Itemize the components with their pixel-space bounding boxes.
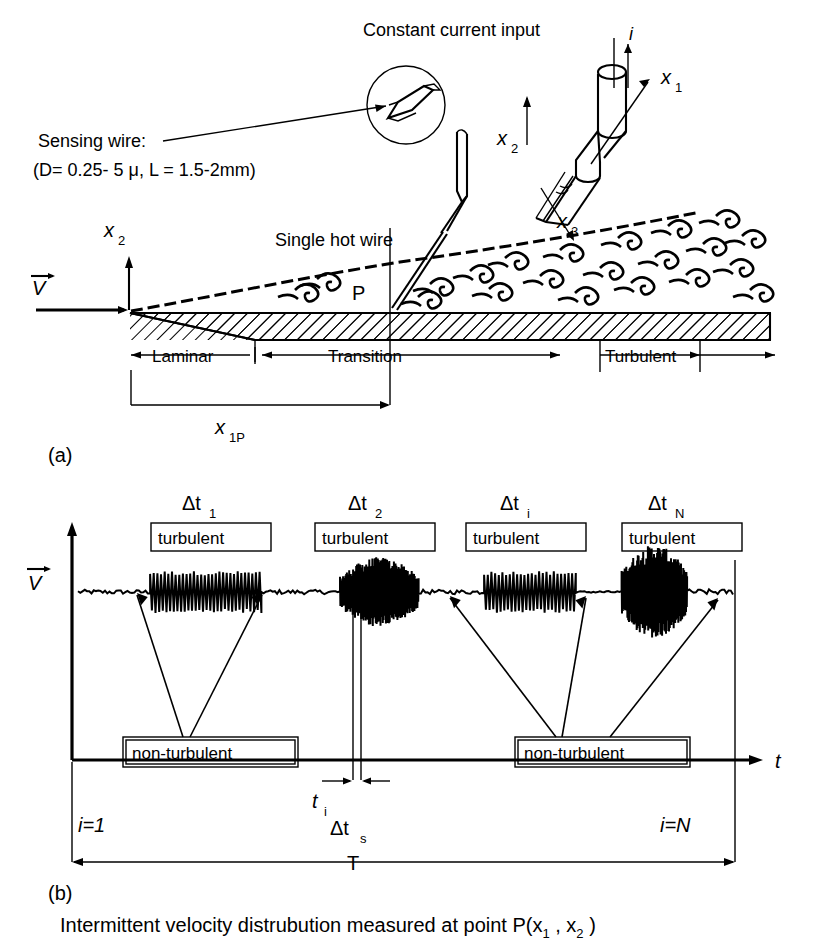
probe-axis-x1-sub: 1: [675, 80, 682, 95]
current-arrow-icon: [614, 38, 632, 88]
burst-delta-1-sub: 1: [209, 506, 216, 521]
nonturbulent-label-1: non-turbulent: [132, 744, 232, 763]
probe-axis-x1-label: x: [660, 66, 672, 88]
burst-delta-3: Δt: [500, 492, 519, 514]
caption-part3: ): [584, 914, 596, 936]
boundary-layer-edge: [131, 212, 700, 311]
panel-b-id: (b): [48, 882, 72, 904]
nonturbulent-label-2: non-turbulent: [524, 744, 624, 763]
burst-delta-4-sub: N: [675, 506, 684, 521]
velocity-vector-arrowhead: [48, 273, 55, 279]
constant-current-input-label: Constant current input: [363, 20, 540, 40]
sensing-wire-label-line2: (D= 0.25- 5 μ, L = 1.5-2mm): [33, 160, 256, 180]
region-label-laminar: Laminar: [152, 347, 214, 366]
velocity-signal-trace: [78, 546, 733, 637]
panel-b-velocity-label: V: [28, 572, 43, 594]
i-last-label: i=N: [660, 814, 691, 836]
burst-label-3: Δt i turbulent: [466, 492, 586, 551]
burst-label-4: Δt N turbulent: [622, 492, 742, 551]
ti-marker: [353, 600, 361, 780]
burst-delta-4: Δt: [648, 492, 667, 514]
freestream-velocity-label: V: [32, 277, 47, 299]
delta-ts-sub: s: [360, 831, 367, 846]
probe-axis-x2-sub: 2: [511, 141, 518, 156]
current-symbol-label: i: [629, 24, 634, 44]
burst-label-1: Δt 1 turbulent: [151, 492, 271, 551]
caption-sub2: 2: [576, 926, 583, 941]
caption-text: Intermittent velocity distrubution measu…: [60, 914, 596, 941]
ti-label: t: [312, 790, 319, 812]
probe-axis-x2: [523, 96, 531, 145]
burst-box-3: turbulent: [473, 529, 539, 548]
region-label-transition: Transition: [328, 347, 402, 366]
panel-b-time-axis-label: t: [775, 750, 782, 772]
region-dimension-lines: [131, 340, 775, 372]
x1p-label: x: [214, 416, 226, 438]
x1p-sub: 1P: [229, 430, 245, 445]
panel-b: V t Δt 1 turbulent Δt 2 turbulent Δt i t…: [27, 492, 782, 904]
flow-axis-x2: [125, 256, 133, 310]
probe-axis-x3-label: x: [556, 210, 568, 232]
point-p-label: P: [352, 282, 365, 304]
sensing-wire-leader-line: [163, 105, 386, 142]
freestream-velocity-arrow: [36, 306, 128, 314]
caption-part1: Intermittent velocity distrubution measu…: [60, 914, 542, 936]
single-hot-wire-label: Single hot wire: [275, 230, 393, 250]
nonturbulent-box-2: non-turbulent: [515, 737, 690, 767]
flat-plate-hatched: [130, 313, 770, 340]
region-label-turbulent: Turbulent: [605, 347, 676, 366]
i-first-label: i=1: [78, 814, 105, 836]
delta-ts-dimension: [322, 778, 390, 785]
x1p-dimension: [131, 370, 390, 409]
delta-ts-label: Δt: [330, 817, 349, 839]
burst-box-1: turbulent: [158, 529, 224, 548]
figure-caption: Intermittent velocity distrubution measu…: [60, 914, 596, 941]
figure-container: Constant current input i Sensing wire: (…: [0, 0, 818, 945]
sensing-wire-detail-icon: [367, 66, 445, 144]
figure-svg: Constant current input i Sensing wire: (…: [0, 0, 818, 945]
caption-part2: , x: [550, 914, 577, 936]
burst-box-2: turbulent: [322, 529, 388, 548]
probe-axis-x2-label: x: [496, 127, 508, 149]
burst-delta-2: Δt: [348, 492, 367, 514]
burst-box-4: turbulent: [629, 529, 695, 548]
period-T-label: T: [347, 852, 359, 874]
panel-b-velocity-vector-arrowhead: [44, 566, 51, 572]
flow-axis-x2-sub: 2: [118, 233, 125, 248]
panel-a: Constant current input i Sensing wire: (…: [31, 20, 775, 466]
flow-axis-x2-label: x: [103, 219, 115, 241]
panel-a-id: (a): [48, 444, 72, 466]
burst-delta-2-sub: 2: [375, 506, 382, 521]
burst-label-2: Δt 2 turbulent: [315, 492, 435, 551]
burst-delta-1: Δt: [182, 492, 201, 514]
sensing-wire-label-line1: Sensing wire:: [38, 131, 146, 151]
burst-delta-3-sub: i: [527, 506, 530, 521]
caption-sub1: 1: [542, 926, 549, 941]
nonturbulent-box-1: non-turbulent: [123, 737, 298, 767]
panel-b-velocity-axis: [67, 522, 77, 760]
ti-sub: i: [324, 804, 327, 819]
probe-axis-x1: [591, 79, 650, 164]
